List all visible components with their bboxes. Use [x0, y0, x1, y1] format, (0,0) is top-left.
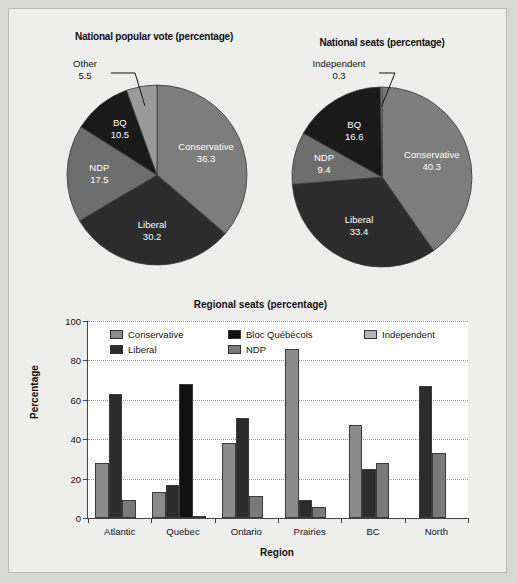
bar-chart-panel: Regional seats (percentage) Percentage C…: [33, 299, 488, 564]
gridline: [88, 479, 468, 480]
bar: [193, 516, 207, 518]
gridline: [88, 321, 468, 322]
pie-right-svg: Conservative40.3Liberal33.4NDP9.4BQ16.6I…: [267, 53, 497, 283]
svg-text:16.6: 16.6: [345, 131, 364, 142]
y-tick-label: 0: [76, 513, 81, 524]
y-axis-label: Percentage: [29, 365, 40, 419]
legend-item: Liberal: [110, 342, 228, 357]
legend-label: Conservative: [128, 329, 183, 340]
pie-left-svg: Conservative36.3Liberal30.2NDP17.5BQ10.5…: [39, 47, 269, 277]
x-category-label: BC: [366, 526, 379, 537]
svg-text:Other: Other: [73, 58, 97, 69]
legend-swatch-icon: [364, 330, 377, 339]
gridline: [88, 439, 468, 440]
legend-swatch-icon: [110, 345, 123, 354]
svg-text:NDP: NDP: [314, 152, 334, 163]
legend-swatch-icon: [228, 345, 241, 354]
x-category-label: Atlantic: [104, 526, 135, 537]
bar: [152, 492, 166, 518]
x-tick-mark: [215, 518, 216, 523]
legend-item: Independent: [364, 327, 435, 342]
legend-swatch-icon: [110, 330, 123, 339]
gridline: [88, 400, 468, 401]
bar: [349, 425, 363, 518]
bar: [249, 496, 263, 518]
x-tick-mark: [405, 518, 406, 523]
pie-right: Conservative40.3Liberal33.4NDP9.4BQ16.6I…: [267, 53, 497, 283]
pie-right-title: National seats (percentage): [267, 37, 497, 48]
svg-text:Independent: Independent: [313, 58, 366, 69]
x-category-label: Prairies: [294, 526, 326, 537]
bar: [166, 485, 180, 518]
bar: [432, 453, 446, 518]
bar: [419, 386, 433, 518]
svg-text:Liberal: Liberal: [138, 219, 167, 230]
svg-text:Liberal: Liberal: [345, 214, 374, 225]
bar-plot-area: ConservativeBloc QuébécoisIndependentLib…: [87, 321, 468, 519]
y-tick-label: 60: [70, 394, 81, 405]
pie-left: Conservative36.3Liberal30.2NDP17.5BQ10.5…: [39, 47, 269, 277]
bar: [122, 500, 136, 518]
y-tick-mark: [83, 321, 88, 322]
svg-text:30.2: 30.2: [143, 231, 162, 242]
legend-label: Independent: [382, 329, 435, 340]
y-tick-label: 80: [70, 355, 81, 366]
bar: [285, 349, 299, 518]
x-tick-mark: [341, 518, 342, 523]
svg-text:BQ: BQ: [113, 117, 127, 128]
bar: [236, 418, 250, 518]
x-axis-label: Region: [87, 547, 467, 558]
bar: [362, 469, 376, 518]
bar: [222, 443, 236, 518]
gridline: [88, 360, 468, 361]
bar: [179, 384, 193, 518]
svg-text:NDP: NDP: [89, 162, 109, 173]
bar-chart-title: Regional seats (percentage): [33, 299, 488, 310]
svg-text:5.5: 5.5: [78, 70, 91, 81]
figure-panel: National popular vote (percentage) Conse…: [8, 8, 507, 573]
x-tick-mark: [151, 518, 152, 523]
x-category-label: North: [425, 526, 448, 537]
y-tick-label: 100: [65, 316, 81, 327]
svg-text:33.4: 33.4: [350, 226, 369, 237]
svg-text:BQ: BQ: [347, 119, 361, 130]
x-category-label: Quebec: [166, 526, 199, 537]
x-tick-mark: [88, 518, 89, 523]
y-tick-mark: [83, 479, 88, 480]
bar: [376, 463, 390, 518]
pie-left-title: National popular vote (percentage): [39, 31, 269, 42]
svg-text:Conservative: Conservative: [178, 141, 233, 152]
bar: [109, 394, 123, 518]
y-tick-mark: [83, 400, 88, 401]
legend-swatch-icon: [228, 330, 241, 339]
svg-text:40.3: 40.3: [423, 161, 442, 172]
legend-label: NDP: [246, 344, 266, 355]
y-tick-label: 40: [70, 434, 81, 445]
svg-text:36.3: 36.3: [197, 153, 216, 164]
bar-chart-legend: ConservativeBloc QuébécoisIndependentLib…: [110, 327, 435, 357]
svg-text:9.4: 9.4: [317, 164, 330, 175]
svg-text:Conservative: Conservative: [404, 149, 459, 160]
legend-label: Bloc Québécois: [246, 329, 313, 340]
svg-text:0.3: 0.3: [332, 70, 345, 81]
bar: [95, 463, 109, 518]
x-tick-mark: [278, 518, 279, 523]
y-tick-mark: [83, 439, 88, 440]
svg-text:10.5: 10.5: [111, 129, 129, 140]
bar: [312, 507, 326, 518]
y-tick-mark: [83, 360, 88, 361]
y-tick-label: 20: [70, 473, 81, 484]
legend-item: Conservative: [110, 327, 228, 342]
legend-item: Bloc Québécois: [228, 327, 364, 342]
legend-label: Liberal: [128, 344, 157, 355]
x-category-label: Ontario: [231, 526, 262, 537]
x-tick-mark: [468, 518, 469, 523]
svg-text:17.5: 17.5: [90, 174, 109, 185]
bar: [299, 500, 313, 518]
